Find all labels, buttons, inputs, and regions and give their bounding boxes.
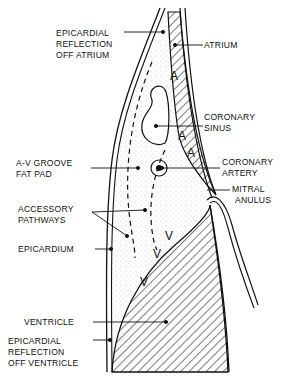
label-coronary-sinus-2: SINUS	[204, 123, 231, 133]
label-coronary-sinus-1: CORONARY	[204, 112, 255, 122]
label-ventricle: VENTRICLE	[24, 317, 74, 327]
label-av-groove-fat-pad-1: A-V GROOVE	[16, 158, 73, 168]
label-mitral-anulus-2: ANULUS	[235, 195, 271, 205]
ventricle-mark-3: V	[140, 275, 148, 289]
heart-av-groove-diagram: A A A V V V EPICARDIAL REFLECTION OFF AT…	[0, 0, 295, 379]
label-epicardial-reflection-ventricle-2: REFLECTION	[8, 347, 64, 357]
ventricle-mark-1: V	[165, 229, 173, 243]
ventricle-mark-2: V	[153, 247, 161, 261]
label-mitral-anulus-1: MITRAL	[232, 184, 265, 194]
atrium-mark-2: A	[178, 129, 186, 143]
label-coronary-artery-1: CORONARY	[222, 157, 273, 167]
label-accessory-pathways-1: ACCESSORY	[18, 204, 74, 214]
label-epicardial-reflection-atrium-1: EPICARDIAL	[56, 28, 109, 38]
atrium-mark-1: A	[170, 69, 178, 83]
label-coronary-artery-2: ARTERY	[222, 168, 258, 178]
label-atrium: ATRIUM	[204, 40, 238, 50]
label-epicardial-reflection-atrium-2: REFLECTION	[56, 39, 112, 49]
label-epicardial-reflection-atrium-3: OFF ATRIUM	[56, 50, 109, 60]
atrium-mark-3: A	[187, 146, 195, 160]
label-epicardial-reflection-ventricle-1: EPICARDIAL	[8, 336, 61, 346]
label-epicardial-reflection-ventricle-3: OFF VENTRICLE	[8, 358, 78, 368]
label-accessory-pathways-2: PATHWAYS	[18, 215, 66, 225]
label-epicardium: EPICARDIUM	[18, 244, 74, 254]
label-av-groove-fat-pad-2: FAT PAD	[16, 169, 52, 179]
